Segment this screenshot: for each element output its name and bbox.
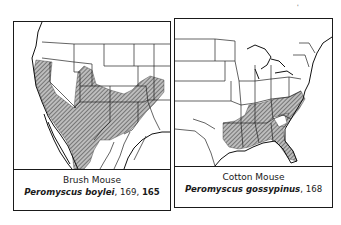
range-map-panel-brush-mouse: Brush Mouse Peromyscus boylei, 169, 165 [13, 21, 171, 211]
corner-mark: ' [297, 3, 299, 10]
scientific-name-line: Peromyscus boylei, 169, 165 [14, 186, 170, 198]
page-refs: , 169, [115, 187, 142, 197]
common-name: Cotton Mouse [175, 171, 332, 183]
common-name: Brush Mouse [14, 174, 170, 186]
page-ref-bold: 165 [142, 187, 160, 197]
map-west-svg [14, 22, 170, 169]
range-map-panel-cotton-mouse: Cotton Mouse Peromyscus gossypinus, 168 [174, 18, 333, 208]
caption-brush-mouse: Brush Mouse Peromyscus boylei, 169, 165 [14, 168, 170, 210]
scientific-name: Peromyscus gossypinus [185, 184, 300, 194]
page-refs: , 168 [300, 184, 322, 194]
scientific-name: Peromyscus boylei [24, 187, 114, 197]
map-east-svg [175, 19, 332, 166]
range-map-east [175, 19, 332, 167]
caption-cotton-mouse: Cotton Mouse Peromyscus gossypinus, 168 [175, 165, 332, 207]
range-map-west [14, 22, 170, 170]
scientific-name-line: Peromyscus gossypinus, 168 [175, 183, 332, 195]
